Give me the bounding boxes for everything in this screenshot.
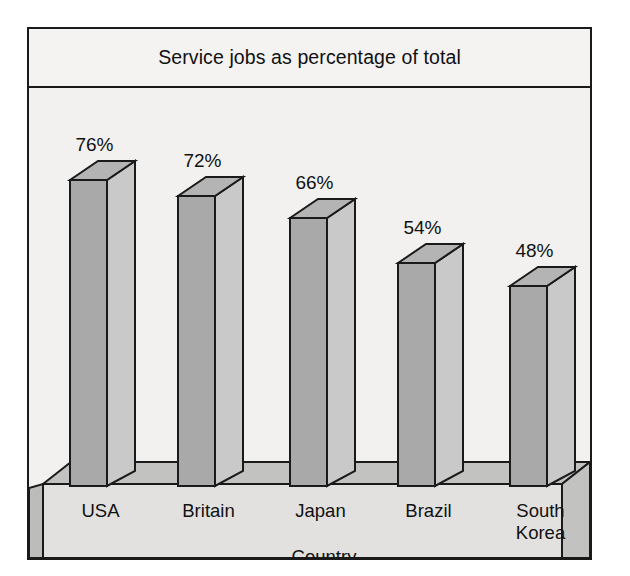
category-label-japan: Japan	[295, 500, 345, 522]
value-label-japan: 66%	[295, 172, 333, 194]
category-label-usa: USA	[81, 500, 119, 522]
bar-chart-svg	[29, 88, 590, 558]
bar-japan[interactable]	[290, 199, 355, 486]
bar-group	[70, 161, 575, 486]
bar-britain[interactable]	[178, 177, 243, 486]
value-label-britain: 72%	[183, 150, 221, 172]
chart-plot-area: 76%72%66%54%48% USABritainJapanBrazilSou…	[29, 88, 590, 558]
category-label-line: USA	[81, 500, 119, 522]
bar-south-korea[interactable]	[510, 267, 575, 486]
chart-title-band: Service jobs as percentage of total	[29, 29, 590, 88]
value-label-usa: 76%	[75, 134, 113, 156]
bar-brazil[interactable]	[398, 244, 463, 486]
category-label-line: Brazil	[405, 500, 451, 522]
category-label-brazil: Brazil	[405, 500, 451, 522]
chart-title: Service jobs as percentage of total	[158, 46, 461, 69]
category-label-line: Japan	[295, 500, 345, 522]
chart-screenshot: Service jobs as percentage of total 76%7…	[0, 0, 630, 576]
value-label-brazil: 54%	[403, 217, 441, 239]
category-label-line: South	[516, 500, 565, 522]
category-label-britain: Britain	[182, 500, 234, 522]
value-label-south-korea: 48%	[515, 240, 553, 262]
x-axis-label: Country	[292, 546, 357, 558]
bar-usa[interactable]	[70, 161, 135, 486]
category-label-line: Korea	[516, 522, 565, 544]
category-label-south-korea: SouthKorea	[516, 500, 565, 544]
category-label-line: Britain	[182, 500, 234, 522]
chart-frame: Service jobs as percentage of total 76%7…	[27, 27, 592, 560]
